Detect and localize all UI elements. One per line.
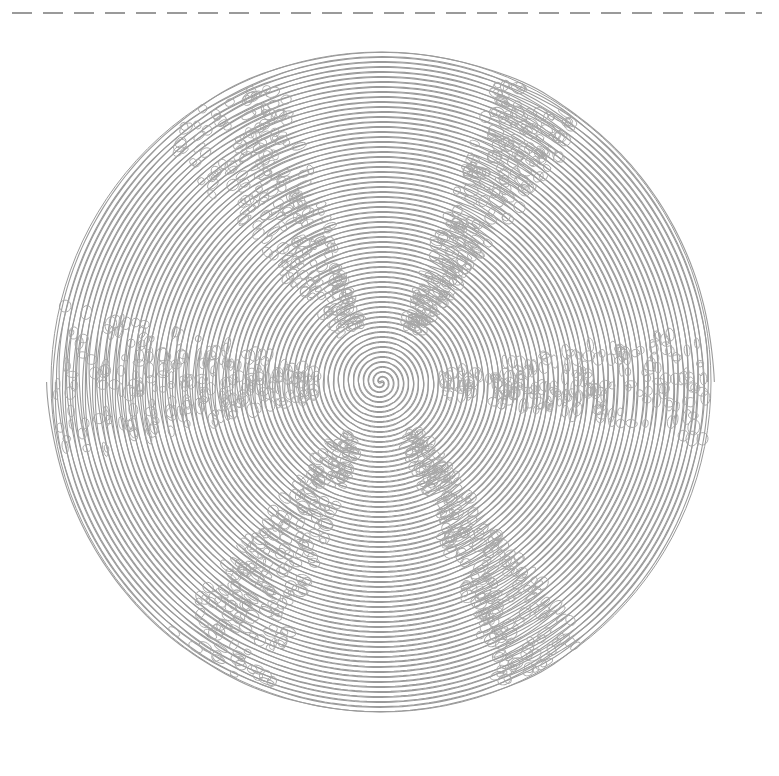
spiral-cellular-pattern-image [0,0,779,776]
